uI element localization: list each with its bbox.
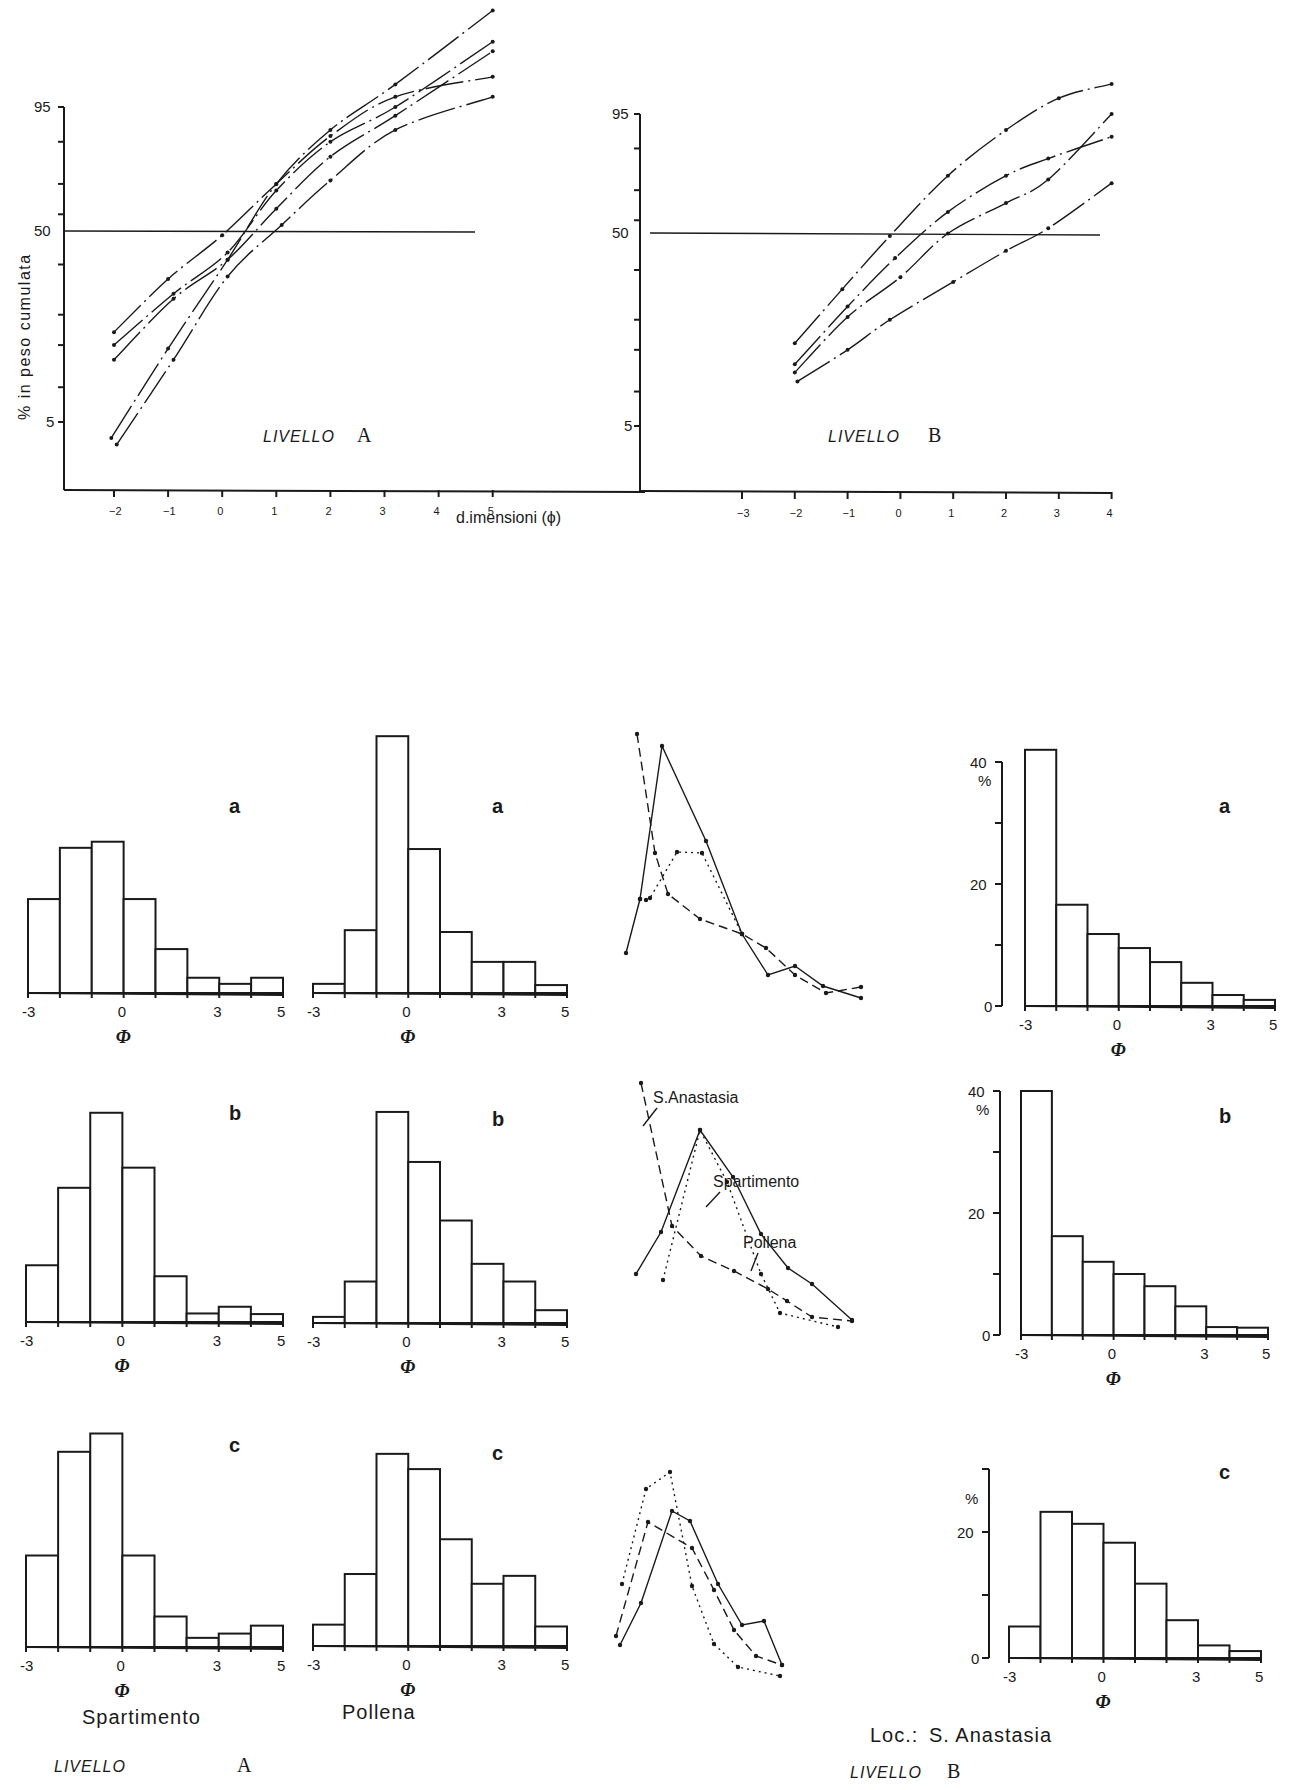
histogram-bar (1237, 1328, 1268, 1335)
percent-label: % (978, 772, 991, 789)
data-point (785, 1299, 789, 1303)
x-tick-label: 0 (1113, 1016, 1121, 1033)
data-point (1004, 201, 1008, 205)
histogram-bar (187, 978, 219, 993)
data-point (736, 1665, 740, 1669)
data-point (946, 231, 950, 235)
annotation-arrow-pollena (751, 1253, 758, 1271)
y-tick-label: 20 (970, 876, 987, 893)
histogram-bar (1206, 1327, 1237, 1335)
panel-letter-spartimento-a: a (229, 795, 241, 817)
livello-label-bottom-a: LIVELLO (54, 1758, 126, 1775)
hist-s-anastasia-c: -3035Φ020% (957, 1469, 1263, 1712)
y-tick-95: 95 (612, 105, 629, 122)
data-point (491, 95, 495, 99)
y-tick-label: 40 (968, 1083, 985, 1100)
data-point (166, 277, 170, 281)
frequency-line-sanastasia (637, 734, 861, 993)
phi-axis-label: Φ (114, 1680, 129, 1701)
data-point (688, 1519, 692, 1523)
data-point (946, 174, 950, 178)
y-tick-95: 95 (34, 98, 51, 115)
x-tick-label: 3 (213, 1332, 221, 1349)
data-point (675, 850, 679, 854)
frequency-curves-b (634, 1081, 854, 1329)
histogram-bar (1230, 1651, 1262, 1658)
histogram-bar (1181, 983, 1212, 1006)
phi-axis-label: Φ (400, 1356, 415, 1377)
histogram-bar (122, 1556, 154, 1648)
data-point (698, 1128, 702, 1132)
y-tick-5: 5 (624, 417, 632, 434)
y-tick-label: 40 (970, 754, 987, 771)
data-point (846, 305, 850, 309)
x-axis-ticks: −3−2−101234 (737, 492, 1113, 519)
x-tick-label: 2 (325, 505, 331, 517)
data-point (115, 443, 119, 447)
histogram-bar (1025, 750, 1056, 1006)
cumulative-curve (111, 11, 492, 438)
data-point (850, 1319, 854, 1323)
histogram-bar (92, 842, 124, 993)
sediment-grain-size-figure: 95 50 5 % in peso cumulata LIVELLO A −2−… (0, 0, 1302, 1790)
x-tick-label: 3 (1054, 507, 1060, 519)
data-point (690, 1546, 694, 1550)
x-tick-label: 3 (213, 1657, 221, 1674)
x-tick-label: -3 (307, 1656, 320, 1673)
x-tick-label: 0 (402, 1003, 410, 1020)
data-point (716, 1582, 720, 1586)
data-point (712, 1642, 716, 1646)
percent-label: % (965, 1490, 978, 1507)
data-point (810, 1315, 814, 1319)
histogram-bar (1021, 1091, 1052, 1335)
data-point (846, 348, 850, 352)
x-tick-label: 2 (1001, 507, 1007, 519)
x-tick-label: 5 (277, 1003, 285, 1020)
y-tick-label: 20 (968, 1205, 985, 1222)
histogram-bar (535, 1310, 567, 1323)
data-point (1110, 135, 1114, 139)
data-point (699, 1254, 703, 1258)
data-point (112, 358, 116, 362)
data-point (660, 744, 664, 748)
histogram-bar (440, 1221, 472, 1323)
data-point (786, 1266, 790, 1270)
data-point (280, 223, 284, 227)
histogram-bar (1119, 948, 1150, 1006)
frequency-curves-a (624, 732, 863, 1000)
data-point (328, 128, 332, 132)
x-tick-label: -3 (1015, 1345, 1028, 1362)
cumulative-chart-livello-b: 95 50 5 LIVELLO B −3−2−101234 (612, 82, 1114, 519)
data-point (754, 1654, 758, 1658)
histogram-bar (472, 962, 504, 993)
x-tick-label: -3 (1019, 1016, 1032, 1033)
data-point (778, 1311, 782, 1315)
histogram-bar (440, 932, 472, 993)
data-point (690, 1584, 694, 1588)
histogram-bar (1009, 1627, 1041, 1659)
x-tick-label: −2 (109, 505, 122, 517)
data-point (644, 898, 648, 902)
histogram-bar (377, 1112, 409, 1323)
data-point (766, 973, 770, 977)
data-point (166, 347, 170, 351)
location-name: S. Anastasia (929, 1724, 1052, 1746)
phi-axis-label: Φ (114, 1355, 129, 1376)
data-point (491, 75, 495, 79)
histogram-bar (345, 1282, 377, 1323)
histogram-bar (26, 1556, 58, 1648)
phi-axis-label: Φ (1096, 1691, 1111, 1712)
y-tick-label: 20 (957, 1524, 974, 1541)
data-point (226, 258, 230, 262)
data-point (793, 362, 797, 366)
data-point (661, 1278, 665, 1282)
data-point (793, 964, 797, 968)
histogram-bar (1244, 1000, 1275, 1006)
x-tick-label: -3 (22, 1003, 35, 1020)
data-point (670, 1509, 674, 1513)
data-point (778, 1674, 782, 1678)
x-axis (640, 491, 1112, 493)
histogram-bar (472, 1264, 504, 1323)
data-point (226, 250, 230, 254)
cumulative-curve (795, 114, 1112, 372)
